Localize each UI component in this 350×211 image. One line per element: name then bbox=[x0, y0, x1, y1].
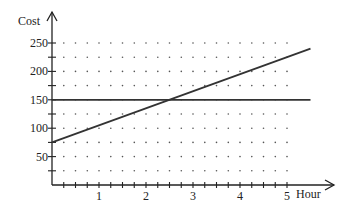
grid-dot bbox=[134, 142, 136, 144]
grid-dot bbox=[98, 156, 100, 158]
grid-dot bbox=[239, 170, 241, 172]
grid-dot bbox=[263, 113, 265, 115]
grid-dot bbox=[216, 71, 218, 73]
grid-dot bbox=[122, 71, 124, 73]
grid-dot bbox=[63, 85, 65, 87]
grid-dot bbox=[216, 42, 218, 44]
grid-dot bbox=[216, 56, 218, 58]
grid-dot bbox=[75, 71, 77, 73]
grid-dot bbox=[157, 142, 159, 144]
grid-dot bbox=[63, 156, 65, 158]
grid-dot bbox=[181, 142, 183, 144]
grid-dot bbox=[75, 170, 77, 172]
grid-dot bbox=[110, 127, 112, 129]
grid-dot bbox=[75, 127, 77, 129]
grid-dot bbox=[122, 142, 124, 144]
grid-dot bbox=[286, 85, 288, 87]
grid-dot bbox=[110, 156, 112, 158]
grid-dot bbox=[204, 170, 206, 172]
grid-dot bbox=[157, 85, 159, 87]
grid-dot bbox=[204, 156, 206, 158]
grid-dot bbox=[181, 71, 183, 73]
grid-dot bbox=[145, 56, 147, 58]
grid-dot bbox=[251, 56, 253, 58]
axes: 12345 50100150200250 bbox=[30, 12, 334, 203]
grid-dot bbox=[192, 170, 194, 172]
grid-dot bbox=[63, 56, 65, 58]
grid-dot bbox=[157, 127, 159, 129]
grid-dot bbox=[263, 85, 265, 87]
grid-dot bbox=[87, 85, 89, 87]
grid-dot bbox=[263, 127, 265, 129]
grid-dot bbox=[251, 85, 253, 87]
x-tick-label: 1 bbox=[96, 189, 102, 203]
x-tick-label: 2 bbox=[143, 189, 149, 203]
grid-dot bbox=[145, 42, 147, 44]
grid-dot bbox=[63, 170, 65, 172]
grid-dot bbox=[263, 56, 265, 58]
grid-dot bbox=[98, 113, 100, 115]
grid-dot bbox=[286, 170, 288, 172]
grid-dot bbox=[275, 156, 277, 158]
grid-dot bbox=[239, 42, 241, 44]
grid-dot bbox=[192, 127, 194, 129]
grid-dot bbox=[275, 85, 277, 87]
grid-dot bbox=[98, 127, 100, 129]
grid-dot bbox=[134, 170, 136, 172]
grid-dot bbox=[157, 113, 159, 115]
grid-dot bbox=[181, 113, 183, 115]
grid-dot bbox=[169, 56, 171, 58]
grid-dot bbox=[110, 85, 112, 87]
grid-dot bbox=[181, 56, 183, 58]
grid-dot bbox=[75, 156, 77, 158]
grid-dot bbox=[204, 142, 206, 144]
grid-dot bbox=[239, 85, 241, 87]
dot-grid bbox=[63, 42, 288, 171]
grid-dot bbox=[122, 127, 124, 129]
grid-dot bbox=[145, 142, 147, 144]
grid-dot bbox=[192, 42, 194, 44]
grid-dot bbox=[286, 71, 288, 73]
grid-dot bbox=[169, 71, 171, 73]
grid-dot bbox=[216, 113, 218, 115]
grid-dot bbox=[110, 42, 112, 44]
grid-dot bbox=[110, 170, 112, 172]
grid-dot bbox=[251, 142, 253, 144]
grid-dot bbox=[286, 156, 288, 158]
grid-dot bbox=[275, 56, 277, 58]
grid-dot bbox=[110, 56, 112, 58]
grid-dot bbox=[228, 85, 230, 87]
y-tick-label: 250 bbox=[30, 36, 48, 50]
grid-dot bbox=[275, 42, 277, 44]
grid-dot bbox=[228, 113, 230, 115]
grid-dot bbox=[98, 71, 100, 73]
y-tick-label: 200 bbox=[30, 64, 48, 78]
grid-dot bbox=[134, 156, 136, 158]
grid-dot bbox=[251, 156, 253, 158]
grid-dot bbox=[75, 56, 77, 58]
grid-dot bbox=[216, 127, 218, 129]
grid-dot bbox=[157, 42, 159, 44]
grid-dot bbox=[263, 170, 265, 172]
grid-dot bbox=[263, 71, 265, 73]
grid-dot bbox=[157, 170, 159, 172]
grid-dot bbox=[228, 56, 230, 58]
grid-dot bbox=[75, 142, 77, 144]
grid-dot bbox=[192, 113, 194, 115]
grid-dot bbox=[87, 71, 89, 73]
grid-dot bbox=[192, 71, 194, 73]
grid-dot bbox=[263, 142, 265, 144]
grid-dot bbox=[169, 156, 171, 158]
grid-dot bbox=[110, 113, 112, 115]
grid-dot bbox=[204, 71, 206, 73]
grid-dot bbox=[87, 156, 89, 158]
grid-dot bbox=[181, 127, 183, 129]
grid-dot bbox=[275, 127, 277, 129]
grid-dot bbox=[122, 156, 124, 158]
grid-dot bbox=[157, 71, 159, 73]
grid-dot bbox=[263, 42, 265, 44]
grid-dot bbox=[204, 56, 206, 58]
y-axis-label: Cost bbox=[18, 14, 41, 28]
grid-dot bbox=[169, 142, 171, 144]
grid-dot bbox=[275, 170, 277, 172]
